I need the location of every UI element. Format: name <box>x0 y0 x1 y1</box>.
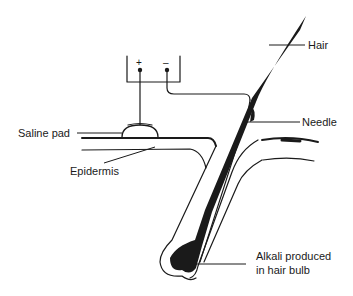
bulb-label-line1: Alkali produced <box>256 250 331 263</box>
follicle-wall-right <box>190 140 258 278</box>
negative-terminal-dot <box>165 68 169 72</box>
saline-pad <box>122 125 158 137</box>
positive-terminal-dot <box>138 68 142 72</box>
hair-shaft <box>170 16 306 273</box>
skin-surface <box>82 138 216 146</box>
power-source-box <box>127 56 180 82</box>
needle-label: Needle <box>302 116 337 129</box>
positive-terminal-label: + <box>136 58 142 68</box>
hair-label: Hair <box>308 39 328 52</box>
epidermis-label: Epidermis <box>70 165 119 178</box>
bulb-label-line2: in hair bulb <box>256 264 310 277</box>
negative-terminal-label: – <box>163 58 169 68</box>
saline-pad-label: Saline pad <box>18 127 70 140</box>
